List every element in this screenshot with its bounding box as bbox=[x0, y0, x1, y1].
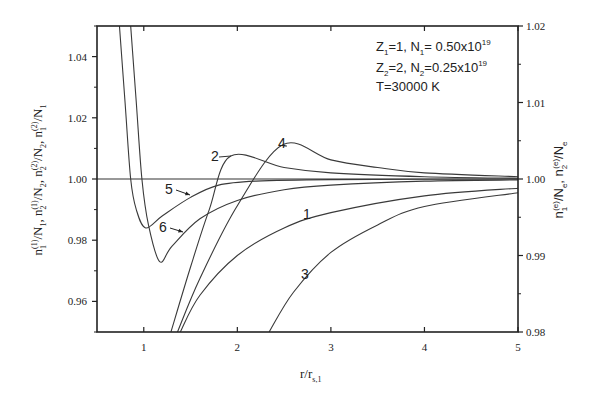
arrow-head-icon bbox=[178, 229, 183, 233]
x-tick-label: 2 bbox=[235, 341, 241, 353]
x-tick-label: 4 bbox=[422, 341, 428, 353]
right-title-text: n1(e)/Ne, n2(e)/Ne bbox=[551, 141, 569, 219]
left-axis-title: n1(1)/N1, n2(1)/N2, n2(2)/N2, n1(2)/N1 bbox=[30, 105, 48, 256]
arrow-head-icon bbox=[185, 192, 190, 196]
legend-line-2: Z2=2, N2=0.25x1019 bbox=[376, 59, 488, 78]
curve-label-5: 5 bbox=[165, 181, 173, 197]
x-axis-title: r/rs,1 bbox=[300, 366, 321, 384]
y-right-tick-label: 1.00 bbox=[526, 173, 546, 185]
curve-4 bbox=[177, 143, 518, 332]
y-right-tick-label: 0.98 bbox=[526, 326, 546, 338]
curve-label-6: 6 bbox=[159, 219, 167, 235]
y-right-tick-label: 0.99 bbox=[526, 250, 546, 262]
curve-1 bbox=[180, 188, 518, 332]
y-left-tick-label: 1.04 bbox=[68, 51, 88, 63]
x-tick-label: 5 bbox=[515, 341, 521, 353]
right-axis-title: n1(e)/Ne, n2(e)/Ne bbox=[551, 141, 569, 219]
y-left-tick-label: 0.98 bbox=[68, 234, 88, 246]
x-tick-label: 3 bbox=[328, 341, 334, 353]
curve-label-2: 2 bbox=[211, 148, 219, 164]
left-title-text: n1(1)/N1, n2(1)/N2, n2(2)/N2, n1(2)/N1 bbox=[30, 105, 48, 256]
curve-label-1: 1 bbox=[303, 206, 311, 222]
y-left-tick-label: 1.00 bbox=[68, 173, 88, 185]
legend-line-3: T=30000 K bbox=[376, 79, 440, 94]
y-right-tick-label: 1.01 bbox=[526, 97, 545, 109]
y-left-tick-label: 0.96 bbox=[68, 295, 88, 307]
curve-label-3: 3 bbox=[301, 266, 309, 282]
legend-line-1: Z1=1, N1= 0.50x1019 bbox=[376, 38, 491, 57]
legend: Z1=1, N1= 0.50x1019 Z2=2, N2=0.25x1019 T… bbox=[376, 38, 491, 94]
chart-figure: 123450.960.981.001.021.040.980.991.001.0… bbox=[0, 0, 598, 395]
x-axis-title-text: r/rs,1 bbox=[300, 366, 321, 384]
y-right-tick-label: 1.02 bbox=[526, 20, 545, 32]
curve-label-4: 4 bbox=[278, 135, 286, 151]
curve-labels: 123456 bbox=[159, 135, 311, 282]
y-left-tick-label: 1.02 bbox=[68, 112, 87, 124]
x-tick-label: 1 bbox=[141, 341, 147, 353]
curve-5 bbox=[119, 26, 518, 228]
